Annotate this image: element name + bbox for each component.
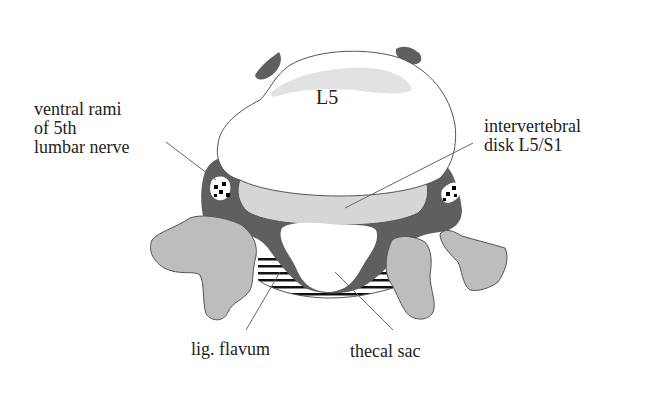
anatomy-diagram <box>0 0 653 396</box>
right-inner-facet <box>386 236 434 319</box>
label-disk-line-2: disk L5/S1 <box>484 136 581 155</box>
right-outer-facet <box>440 230 507 290</box>
left-facet <box>151 216 257 320</box>
label-ventral-rami-line-3: lumbar nerve <box>34 138 129 157</box>
label-thecal-sac: thecal sac <box>350 342 420 361</box>
top-left-blob <box>255 52 281 80</box>
leader-ventral-rami <box>166 142 216 180</box>
label-ventral-rami-line-2: of 5th <box>34 119 129 138</box>
label-disk-line-1: intervertebral <box>484 117 581 136</box>
label-lig-flavum: lig. flavum <box>191 340 270 359</box>
vertebra-label-l5: L5 <box>316 88 338 107</box>
label-ventral-rami: ventral rami of 5th lumbar nerve <box>34 100 129 157</box>
label-intervertebral-disk: intervertebral disk L5/S1 <box>484 117 581 155</box>
label-ventral-rami-line-1: ventral rami <box>34 100 129 119</box>
left-nerve-root-icon <box>210 177 230 201</box>
